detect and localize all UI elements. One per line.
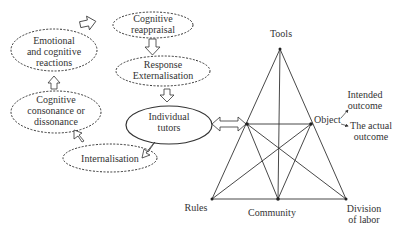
svg-text:Cognitive: Cognitive (36, 94, 76, 105)
svg-text:tutors: tutors (158, 122, 181, 133)
label-actual-2: outcome (354, 131, 389, 142)
arrow-response-to-tutors (160, 89, 174, 102)
label-community: Community (248, 207, 296, 218)
arrow-reappraisal-to-response (145, 39, 160, 55)
node-emotional-reactions: Emotional and cognitive reactions (11, 29, 97, 71)
label-actual: The actual (350, 120, 392, 131)
svg-text:Individual: Individual (148, 111, 189, 122)
label-rules: Rules (185, 202, 208, 213)
arrow-emotional-to-reappraisal (79, 14, 98, 31)
svg-text:Cognitive: Cognitive (133, 13, 173, 24)
label-tools: Tools (270, 28, 292, 39)
label-object: Object (314, 114, 341, 125)
svg-text:reappraisal: reappraisal (131, 24, 175, 35)
node-individual-tutors: Individual tutors (126, 106, 212, 144)
svg-text:and cognitive: and cognitive (27, 46, 82, 57)
node-cognitive-reappraisal: Cognitive reappraisal (113, 12, 193, 38)
svg-text:Internalisation: Internalisation (81, 153, 139, 164)
svg-text:dissonance: dissonance (34, 116, 78, 127)
svg-text:Emotional: Emotional (33, 35, 75, 46)
node-cognitive-consonance: Cognitive consonance or dissonance (11, 91, 101, 133)
label-intended: Intended (348, 89, 383, 100)
label-division-2: of labor (348, 214, 380, 225)
node-response-externalisation: Response Externalisation (116, 56, 210, 86)
svg-text:reactions: reactions (36, 57, 72, 68)
label-division: Division (347, 203, 381, 214)
svg-text:Response: Response (144, 59, 183, 70)
arrow-tutors-to-internalisation (142, 142, 155, 158)
svg-text:consonance or: consonance or (27, 105, 85, 116)
arrow-tutors-to-subject (212, 117, 246, 131)
arrow-consonance-to-emotional (48, 76, 60, 89)
label-intended-2: outcome (348, 100, 383, 111)
svg-text:Externalisation: Externalisation (133, 70, 194, 81)
activity-diagram: Cognitive reappraisal Response Externali… (0, 0, 395, 228)
arrow-internalisation-to-consonance (74, 130, 84, 142)
